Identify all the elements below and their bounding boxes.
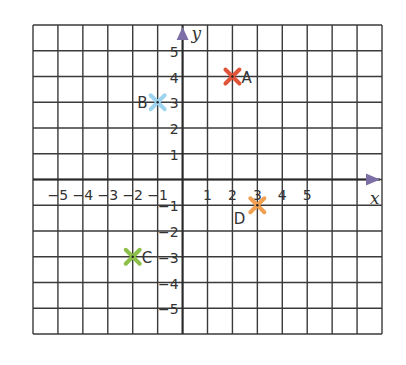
y-tick-label: 1: [170, 147, 179, 163]
x-tick-label: −5: [48, 187, 69, 203]
x-tick-label: −3: [97, 187, 118, 203]
point-dot: [256, 204, 258, 206]
axes: xy: [33, 23, 380, 334]
y-tick-label: 3: [170, 95, 179, 111]
coordinate-grid: xy −5−4−3−2−11234554321−1−2−3−4−5 ABCD: [0, 0, 406, 365]
point-label: D: [234, 210, 246, 228]
x-tick-label: 5: [303, 187, 312, 203]
y-tick-label: −5: [158, 301, 179, 317]
point-a: A: [225, 69, 252, 87]
y-axis-arrow-icon: [177, 27, 189, 40]
point-b: B: [137, 94, 164, 112]
plotted-points: ABCD: [126, 69, 265, 267]
x-tick-label: −4: [73, 187, 94, 203]
y-tick-label: −4: [158, 276, 179, 292]
point-label: A: [241, 69, 252, 87]
point-dot: [231, 75, 233, 77]
y-tick-label: 5: [170, 44, 179, 60]
point-label: C: [142, 249, 152, 267]
y-tick-label: 4: [170, 70, 179, 86]
point-label: B: [137, 94, 147, 112]
x-axis-arrow-icon: [366, 174, 380, 186]
x-axis-label: x: [370, 188, 380, 208]
y-tick-label: 2: [170, 121, 179, 137]
point-d: D: [234, 198, 265, 228]
x-tick-label: 4: [278, 187, 287, 203]
point-dot: [132, 256, 134, 258]
point-c: C: [126, 249, 152, 267]
x-tick-label: −2: [122, 187, 143, 203]
y-tick-label: −2: [158, 224, 179, 240]
x-tick-label: 1: [203, 187, 212, 203]
x-tick-label: 2: [228, 187, 237, 203]
point-dot: [156, 101, 158, 103]
y-axis-label: y: [191, 23, 202, 43]
y-tick-label: −3: [158, 250, 179, 266]
y-tick-label: −1: [158, 198, 179, 214]
